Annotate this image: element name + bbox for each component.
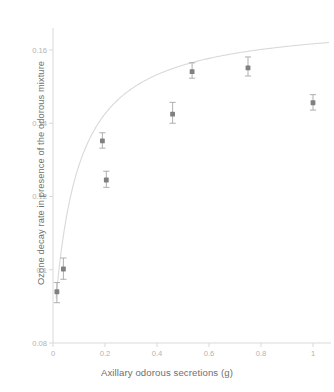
- data-point-group: [170, 102, 176, 123]
- data-point-marker: [55, 289, 60, 294]
- ozone-decay-scatter-chart: 0.080.10.120.140.1600.20.40.60.81 Ozone …: [0, 0, 334, 392]
- x-tick-label: 0.6: [204, 349, 215, 358]
- y-axis-title: Ozone decay rate in presence of the odor…: [36, 28, 46, 318]
- y-tick-label: 0.08: [32, 339, 47, 348]
- x-tick-label: 0.8: [256, 349, 267, 358]
- data-point-marker: [190, 69, 195, 74]
- data-point-marker: [246, 66, 251, 71]
- data-point-marker: [100, 138, 105, 143]
- data-point-group: [103, 171, 109, 187]
- data-point-group: [54, 283, 60, 303]
- data-point-group: [310, 95, 316, 110]
- x-tick-label: 0.2: [100, 349, 111, 358]
- data-point-marker: [61, 267, 66, 272]
- x-tick-label: 1: [311, 349, 315, 358]
- data-point-marker: [311, 100, 316, 105]
- data-point-group: [189, 63, 195, 78]
- data-point-group: [245, 57, 251, 76]
- fit-curve: [56, 43, 328, 299]
- x-axis-title: Axillary odorous secretions (g): [0, 367, 334, 378]
- x-tick-label: 0.4: [152, 349, 163, 358]
- data-point-group: [99, 133, 105, 148]
- data-point-marker: [170, 112, 175, 117]
- plot-area: 0.080.10.120.140.1600.20.40.60.81: [0, 0, 334, 392]
- x-tick-label: 0: [51, 349, 55, 358]
- data-point-marker: [104, 178, 109, 183]
- data-point-group: [60, 258, 66, 279]
